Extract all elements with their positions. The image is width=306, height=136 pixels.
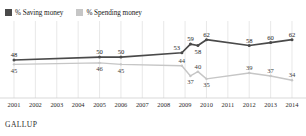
gallup-line-chart: % Saving money % Spending money 48505053… — [0, 0, 306, 136]
data-label: 59 — [182, 35, 198, 42]
data-point — [248, 44, 251, 47]
data-label: 45 — [113, 67, 129, 74]
data-label: 58 — [190, 48, 206, 55]
data-label: 62 — [284, 31, 300, 38]
data-point — [98, 56, 101, 59]
data-label: 53 — [169, 44, 185, 51]
data-label: 37 — [182, 78, 198, 85]
data-point — [291, 38, 294, 41]
legend-label-spending: % Spending money — [86, 9, 142, 17]
data-point — [269, 41, 272, 44]
data-point — [189, 43, 192, 46]
data-label: 40 — [190, 63, 206, 70]
top-cutoff-note — [4, 0, 302, 5]
x-tick-label: 2014 — [279, 101, 305, 109]
data-point — [13, 59, 16, 62]
data-label: 34 — [284, 71, 300, 78]
data-label: 46 — [92, 65, 108, 72]
data-point — [205, 38, 208, 41]
data-point — [196, 44, 199, 47]
data-label: 37 — [263, 67, 279, 74]
data-label: 50 — [113, 48, 129, 55]
plot-svg — [0, 21, 306, 99]
data-label: 60 — [263, 34, 279, 41]
data-label: 50 — [92, 48, 108, 55]
data-label: 39 — [241, 64, 257, 71]
data-point — [248, 72, 250, 74]
legend-label-saving: % Saving money — [15, 9, 63, 17]
data-point — [269, 75, 271, 77]
data-point — [98, 62, 100, 64]
plot-area: 4850505359586258606245464544374035393734 — [0, 21, 306, 99]
data-point — [13, 63, 15, 65]
data-label: 35 — [198, 81, 214, 88]
data-point — [120, 63, 122, 65]
legend-item-saving: % Saving money — [5, 9, 63, 17]
data-label: 45 — [6, 67, 22, 74]
data-point — [181, 65, 183, 67]
data-label: 44 — [174, 57, 190, 64]
legend-item-spending: % Spending money — [76, 9, 142, 17]
data-point — [189, 75, 191, 77]
data-point — [180, 51, 183, 54]
data-label: 58 — [241, 37, 257, 44]
chart-legend: % Saving money % Spending money — [5, 7, 142, 18]
gallup-brand: GALLUP — [5, 120, 37, 129]
data-point — [197, 70, 199, 72]
x-axis-labels: 2001200220032004200520062007200820092010… — [0, 101, 306, 113]
data-point — [291, 79, 293, 81]
legend-swatch-saving-icon — [5, 9, 12, 16]
data-label: 62 — [198, 31, 214, 38]
data-point — [205, 78, 207, 80]
data-label: 48 — [6, 51, 22, 58]
legend-swatch-spending-icon — [76, 9, 83, 16]
data-point — [119, 56, 122, 59]
